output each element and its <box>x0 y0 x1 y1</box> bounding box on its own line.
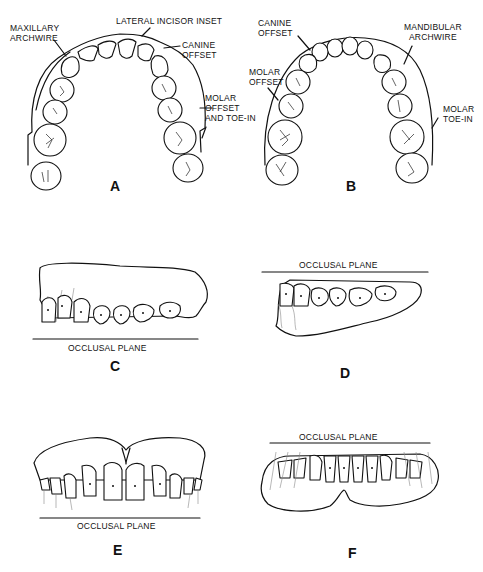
tooth <box>43 100 67 124</box>
tooth <box>173 154 203 182</box>
label-molar-toe-in: MOLAR TOE-IN <box>443 104 474 124</box>
teeth-row-d <box>280 283 396 306</box>
tooth <box>31 162 61 190</box>
tooth <box>126 463 144 500</box>
tooth <box>390 120 424 154</box>
tooth <box>118 39 136 58</box>
label-molar-offset-toe-in: MOLAR OFFSET AND TOE-IN <box>205 93 256 123</box>
label-canine-offset-a: CANINE OFFSET <box>182 40 217 60</box>
tooth <box>410 460 422 478</box>
label-line: MOLAR <box>249 67 284 77</box>
tooth <box>327 39 343 57</box>
panel-letter-b: B <box>346 178 356 194</box>
tooth <box>78 46 98 61</box>
label-line: AND TOE-IN <box>205 113 256 123</box>
tooth <box>388 94 412 118</box>
panel-letter-a: A <box>110 178 120 194</box>
tooth <box>342 37 358 55</box>
teeth-row-f <box>278 455 422 482</box>
label-line: OFFSET <box>258 28 293 38</box>
label-line: TOE-IN <box>443 114 474 124</box>
label-line: OFFSET <box>182 50 217 60</box>
teeth-row-c <box>42 295 180 324</box>
panel-b-mandibular-arch <box>265 36 438 185</box>
tooth <box>152 465 166 496</box>
panel-letter-d: D <box>340 365 350 381</box>
panel-f-mandibular-frontal <box>261 443 438 511</box>
tooth <box>278 460 292 478</box>
tooth <box>184 478 194 494</box>
tooth <box>266 155 298 185</box>
label-mandibular-archwire: MANDIBULAR ARCHWIRE <box>404 22 462 42</box>
label-line: ARCHWIRE <box>10 33 59 43</box>
tooth <box>40 478 50 490</box>
label-occlusal-plane-c: OCCLUSAL PLANE <box>68 343 147 353</box>
tooth <box>82 465 96 496</box>
label-occlusal-plane-d: OCCLUSAL PLANE <box>299 260 378 270</box>
panel-c-maxillary-lateral <box>33 263 207 339</box>
tooth <box>357 41 373 59</box>
label-line: OFFSET <box>249 77 284 87</box>
tooth <box>294 284 310 306</box>
tooth <box>299 54 316 72</box>
panel-letter-c: C <box>110 358 120 374</box>
tooth <box>50 478 62 494</box>
label-maxillary-archwire: MAXILLARY ARCHWIRE <box>10 23 59 43</box>
tooth <box>170 474 182 498</box>
tooth <box>349 288 372 306</box>
tooth <box>74 299 90 322</box>
label-line: CANINE <box>182 40 217 50</box>
tooth <box>164 122 196 154</box>
tooth <box>329 288 346 306</box>
tooth <box>98 41 116 58</box>
label-occlusal-plane-f: OCCLUSAL PLANE <box>299 432 378 442</box>
label-line: ARCHWIRE <box>404 32 462 42</box>
tooth <box>396 458 408 478</box>
label-line: MOLAR <box>205 93 256 103</box>
tooth <box>310 455 322 480</box>
panel-d-mandibular-lateral <box>262 272 428 336</box>
tooth <box>374 55 391 73</box>
tooth <box>194 478 202 490</box>
tooth <box>380 455 392 480</box>
tooth <box>64 474 76 498</box>
label-line: MANDIBULAR <box>404 22 462 32</box>
label-line: CANINE <box>258 18 293 28</box>
tooth <box>280 283 294 306</box>
label-line: OFFSET <box>205 103 256 113</box>
label-molar-offset-b: MOLAR OFFSET <box>249 67 284 87</box>
label-lateral-incisor-inset: LATERAL INCISOR INSET <box>116 16 222 26</box>
label-canine-offset-b: CANINE OFFSET <box>258 18 293 38</box>
tooth <box>61 57 79 78</box>
label-occlusal-plane-e: OCCLUSAL PLANE <box>77 521 156 531</box>
dental-archwire-illustration <box>0 0 483 572</box>
panel-letter-e: E <box>113 542 122 558</box>
tooth <box>138 44 154 61</box>
tooth <box>104 463 122 500</box>
tooth <box>42 298 56 322</box>
panel-letter-f: F <box>348 545 357 561</box>
tooth <box>294 458 306 478</box>
teeth-row-e <box>40 463 202 500</box>
tooth <box>58 295 72 318</box>
tooth <box>50 78 74 102</box>
label-line: MAXILLARY <box>10 23 59 33</box>
tooth <box>311 288 328 306</box>
panel-e-maxillary-frontal <box>34 438 205 518</box>
tooth <box>34 124 66 156</box>
label-line: MOLAR <box>443 104 474 114</box>
tooth <box>151 56 168 78</box>
